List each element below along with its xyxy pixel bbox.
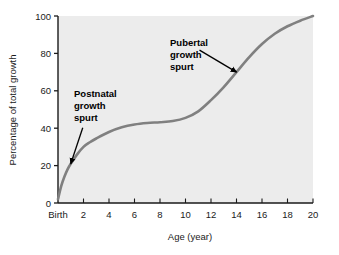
- x-tick-label: 10: [180, 209, 191, 220]
- x-tick-label: 4: [106, 209, 111, 220]
- y-tick-label: 80: [40, 48, 51, 59]
- annotation-pubertal-line-3: spurt: [170, 61, 195, 72]
- x-tick-label: 2: [81, 209, 86, 220]
- x-tick-label: 6: [132, 209, 137, 220]
- annotation-postnatal-line-1: Postnatal: [74, 88, 117, 99]
- y-axis-ticks: 020406080100: [35, 11, 58, 209]
- x-tick-label: 18: [282, 209, 293, 220]
- x-tick-label: 14: [231, 209, 242, 220]
- y-axis-title: Percentage of total growth: [7, 55, 18, 166]
- y-tick-label: 100: [35, 11, 51, 22]
- annotation-postnatal-line-2: growth: [74, 100, 106, 111]
- x-tick-label: Birth: [48, 209, 68, 220]
- annotation-pubertal-line-2: growth: [170, 49, 202, 60]
- x-tick-label: 16: [257, 209, 268, 220]
- chart-canvas: 020406080100 Birth2468101214161820 Perce…: [0, 0, 339, 255]
- y-tick-label: 20: [40, 160, 51, 171]
- y-tick-label: 40: [40, 123, 51, 134]
- growth-curve-figure: 020406080100 Birth2468101214161820 Perce…: [0, 0, 339, 255]
- y-tick-label: 0: [46, 198, 51, 209]
- x-tick-label: 20: [308, 209, 319, 220]
- annotation-postnatal-line-3: spurt: [74, 112, 99, 123]
- x-tick-label: 8: [157, 209, 162, 220]
- annotation-pubertal-line-1: Pubertal: [170, 37, 208, 48]
- y-tick-label: 60: [40, 85, 51, 96]
- x-tick-label: 12: [206, 209, 217, 220]
- x-axis-title: Age (year): [168, 231, 212, 242]
